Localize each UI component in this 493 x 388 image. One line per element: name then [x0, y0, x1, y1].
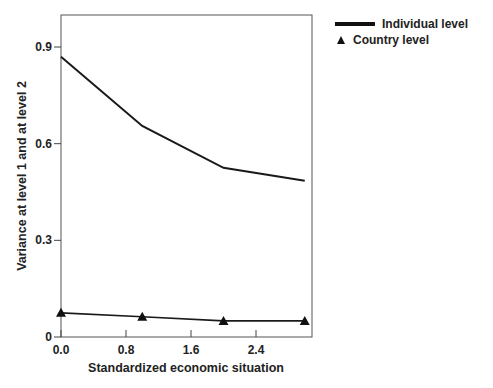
x-tick-label: 1.6	[183, 343, 200, 357]
x-tick-label: 0.0	[53, 343, 70, 357]
y-tick-label: 0.9	[35, 40, 52, 54]
y-tick-label: 0.6	[35, 137, 52, 151]
series-country-level	[61, 313, 305, 321]
y-axis-label: Variance at level 1 and at level 2	[15, 81, 29, 271]
y-tick-label: 0	[45, 330, 52, 344]
x-axis-label: Standardized economic situation	[88, 361, 284, 375]
chart: 00.30.60.9 0.00.81.62.4 Standardized eco…	[0, 0, 493, 388]
legend-item-individual: Individual level	[335, 16, 468, 32]
x-tick-label: 2.4	[248, 343, 265, 357]
legend-label: Country level	[353, 33, 429, 47]
legend: Individual level Country level	[335, 16, 468, 48]
country-level-markers	[56, 308, 310, 325]
series-individual-level	[61, 57, 305, 181]
triangle-marker-icon	[337, 36, 345, 44]
line-swatch-icon	[335, 22, 375, 26]
y-tick-label: 0.3	[35, 233, 52, 247]
x-tick-label: 0.8	[118, 343, 135, 357]
legend-item-country: Country level	[335, 32, 468, 48]
plot-area: 00.30.60.9 0.00.81.62.4	[35, 15, 312, 357]
legend-label: Individual level	[382, 17, 468, 31]
x-axis: 0.00.81.62.4	[53, 330, 265, 357]
y-axis: 00.30.60.9	[35, 40, 61, 344]
